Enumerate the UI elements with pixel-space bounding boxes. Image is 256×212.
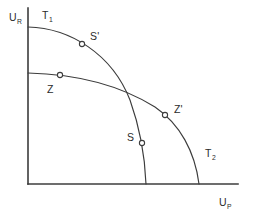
point-marker-z <box>57 72 62 77</box>
point-marker-s <box>139 140 144 145</box>
x-axis-label: U P <box>219 196 232 210</box>
point-label-s: S <box>127 131 134 143</box>
utility-frontier-figure: U R U P T 1 T 2 S' Z Z' S <box>0 0 256 212</box>
point-label-s-prime: S' <box>90 30 99 42</box>
point-label-z-prime: Z' <box>174 103 183 115</box>
point-marker-s-prime <box>79 41 84 46</box>
diagram-canvas: U R U P T 1 T 2 S' Z Z' S <box>0 0 256 212</box>
curve-label-t2-subscript: 2 <box>212 154 216 161</box>
y-axis-label: U R <box>9 11 22 25</box>
curve-label-t2-base: T <box>205 147 212 159</box>
x-axis-label-subscript: P <box>227 203 232 210</box>
point-marker-z-prime <box>162 112 167 117</box>
curve-label-t2: T 2 <box>205 147 216 161</box>
x-axis-label-base: U <box>219 196 227 208</box>
y-axis-label-subscript: R <box>17 18 22 25</box>
y-axis-label-base: U <box>9 11 17 23</box>
curve-label-t1-subscript: 1 <box>49 16 53 23</box>
curve-t1 <box>28 27 146 184</box>
curve-label-t1-base: T <box>42 9 49 21</box>
curve-label-t1: T 1 <box>42 9 53 23</box>
point-label-z: Z <box>47 83 54 95</box>
curve-t2 <box>28 73 199 184</box>
